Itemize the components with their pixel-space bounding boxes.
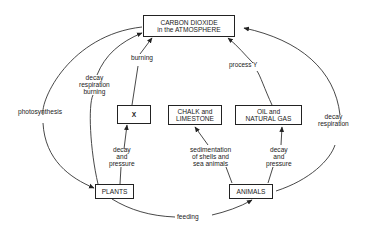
label-line2: of shells and — [190, 153, 231, 160]
node-chalk-line1: CHALK and — [176, 108, 214, 115]
label-decay: decay — [79, 74, 110, 81]
node-chalk-limestone: CHALK and LIMESTONE — [168, 105, 222, 125]
arrow-process-y — [228, 38, 272, 105]
label-photosynthesis: photosynthesis — [18, 108, 62, 115]
node-plants: PLANTS — [95, 184, 134, 199]
label-line1: decay — [318, 113, 349, 120]
label-line1: decay — [109, 146, 135, 153]
label-line1: sedimentation — [190, 146, 231, 153]
node-animals-label: ANIMALS — [237, 188, 266, 195]
label-plants-to-co2: decay respiration burning — [79, 74, 110, 96]
label-line2: and — [109, 153, 135, 160]
label-line2: respiration — [318, 120, 349, 127]
label-feeding-text: feeding — [177, 213, 199, 220]
label-feeding: feeding — [177, 213, 199, 220]
label-animals-to-oil: decay and pressure — [266, 146, 292, 168]
label-animals-to-co2: decay respiration — [318, 113, 349, 127]
node-oil-line2: NATURAL GAS — [246, 115, 292, 122]
node-x-label: X — [132, 111, 136, 118]
node-co2-line1: CARBON DIOXIDE — [157, 19, 220, 26]
label-line3: pressure — [109, 160, 135, 167]
node-oil-natural-gas: OIL and NATURAL GAS — [235, 105, 302, 125]
node-plants-label: PLANTS — [102, 188, 128, 195]
label-line3: sea animals — [190, 160, 231, 167]
arrow-x-burning — [132, 38, 152, 105]
node-carbon-dioxide: CARBON DIOXIDE in the ATMOSPHERE — [143, 15, 235, 37]
node-chalk-line2: LIMESTONE — [176, 115, 214, 122]
label-respiration: respiration — [79, 81, 110, 88]
node-oil-line1: OIL and — [246, 108, 292, 115]
label-process-y-text: process Y — [229, 61, 257, 68]
label-x-burning-text: burning — [131, 54, 153, 61]
label-burning: burning — [79, 88, 110, 95]
label-sedimentation: sedimentation of shells and sea animals — [190, 146, 231, 168]
label-process-y: process Y — [229, 61, 257, 68]
label-x-burning: burning — [131, 54, 153, 61]
node-animals: ANIMALS — [229, 184, 273, 199]
node-co2-line2: in the ATMOSPHERE — [157, 26, 220, 33]
label-line2: and — [266, 153, 292, 160]
label-plants-to-x: decay and pressure — [109, 146, 135, 168]
label-line3: pressure — [266, 160, 292, 167]
node-x: X — [117, 105, 151, 124]
label-line1: decay — [266, 146, 292, 153]
label-photosynthesis-text: photosynthesis — [18, 108, 62, 115]
